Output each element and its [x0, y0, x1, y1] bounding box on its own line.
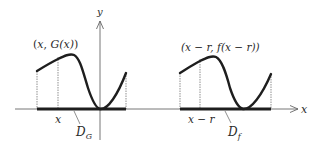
curve-f: [180, 56, 271, 109]
left-panel-graph-G: (x, G(x)) x DG: [33, 38, 126, 141]
y-axis-label: y: [96, 6, 103, 17]
curve-G: [37, 54, 126, 109]
y-axis: y: [96, 6, 104, 140]
point-label-f: (x − r, f(x − r)): [181, 41, 260, 53]
Df-leader-line: [225, 111, 231, 123]
x-tick-label: x: [55, 113, 62, 126]
right-panel-graph-f: (x − r, f(x − r)) x − r Df: [180, 41, 271, 141]
DG-leader-line: [74, 111, 80, 124]
domain-label-Df: Df: [227, 125, 243, 141]
x-minus-r-tick-label: x − r: [188, 113, 215, 125]
translation-diagram: x y (x, G(x)) x DG (x − r, f(x − r)): [0, 0, 310, 151]
domain-label-DG: DG: [75, 125, 93, 141]
x-axis-label: x: [301, 103, 308, 116]
point-label-G: (x, G(x)): [33, 38, 78, 51]
